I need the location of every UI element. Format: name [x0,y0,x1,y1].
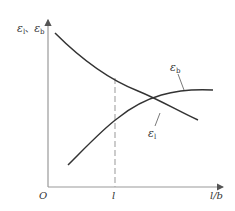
curve-b-label: εb [170,61,181,75]
x-marker-label: l [112,190,115,201]
x-axis-label: l/b [210,190,223,201]
curve-l-label: εl [148,127,157,141]
leader-line-l [155,113,160,126]
diagram-canvas: εl、εb εb εl O l l/b [0,0,235,211]
curve-epsilon-b [55,33,198,120]
leader-line-b [178,74,184,90]
y-axis-label: εl、εb [17,22,45,36]
origin-label: O [39,190,47,201]
curve-epsilon-l [68,90,213,165]
